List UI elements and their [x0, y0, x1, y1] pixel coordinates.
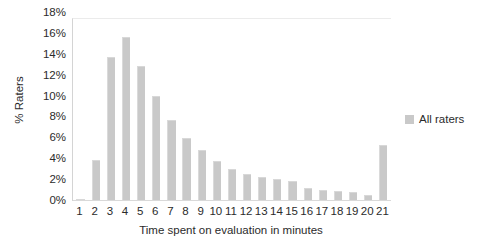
- bar: [167, 120, 175, 201]
- x-axis-tick-4: 4: [117, 203, 132, 219]
- x-axis-tick-14: 14: [269, 203, 284, 219]
- bar-slot: [285, 19, 300, 201]
- bar-series-all-raters: [73, 19, 391, 201]
- bar-slot: [346, 19, 361, 201]
- y-axis-title-text: % Raters: [13, 76, 25, 123]
- y-axis-tick-8%: 8%: [49, 110, 66, 122]
- bar: [273, 179, 281, 201]
- y-axis-tick-6%: 6%: [49, 131, 66, 143]
- x-axis-tick-12: 12: [239, 203, 254, 219]
- bar-slot: [270, 19, 285, 201]
- bar-slot: [118, 19, 133, 201]
- bar: [319, 190, 327, 201]
- bar-slot: [315, 19, 330, 201]
- legend-label-all-raters: All raters: [419, 113, 464, 125]
- bar: [107, 57, 115, 201]
- bar-slot: [224, 19, 239, 201]
- x-axis-tick-17: 17: [314, 203, 329, 219]
- x-axis-tick-11: 11: [223, 203, 238, 219]
- x-axis-tick-13: 13: [254, 203, 269, 219]
- bar-slot: [330, 19, 345, 201]
- y-axis-tick-labels: 0%2%4%6%8%10%12%14%16%18%: [30, 12, 70, 200]
- bar-slot: [376, 19, 391, 201]
- x-axis-tick-19: 19: [345, 203, 360, 219]
- bar: [243, 174, 251, 201]
- x-axis-tick-9: 9: [193, 203, 208, 219]
- chart-legend: All raters: [400, 110, 469, 128]
- x-axis-tick-7: 7: [163, 203, 178, 219]
- bar: [76, 199, 84, 201]
- x-axis-tick-10: 10: [208, 203, 223, 219]
- y-axis-tick-0%: 0%: [49, 194, 66, 206]
- x-axis-tick-3: 3: [102, 203, 117, 219]
- bar: [198, 150, 206, 201]
- x-axis-tick-16: 16: [299, 203, 314, 219]
- x-axis-tick-1: 1: [72, 203, 87, 219]
- bar-slot: [134, 19, 149, 201]
- bar-slot: [164, 19, 179, 201]
- y-axis-tick-16%: 16%: [43, 27, 66, 39]
- bar: [288, 181, 296, 201]
- bar: [152, 96, 160, 201]
- legend-swatch-all-raters: [405, 115, 414, 124]
- bar-slot: [103, 19, 118, 201]
- bar: [304, 188, 312, 201]
- bar-slot: [179, 19, 194, 201]
- bar-slot: [209, 19, 224, 201]
- bar: [137, 66, 145, 201]
- x-axis-tick-15: 15: [284, 203, 299, 219]
- x-axis-tick-labels: 123456789101112131415161718192021: [72, 203, 390, 219]
- y-axis-tick-14%: 14%: [43, 48, 66, 60]
- y-axis-tick-4%: 4%: [49, 152, 66, 164]
- x-axis-tick-6: 6: [148, 203, 163, 219]
- bar-slot: [240, 19, 255, 201]
- x-axis-tick-5: 5: [133, 203, 148, 219]
- x-axis-tick-18: 18: [329, 203, 344, 219]
- bar: [364, 195, 372, 201]
- bar-slot: [300, 19, 315, 201]
- bar: [122, 37, 130, 201]
- y-axis-tick-18%: 18%: [43, 6, 66, 18]
- plot-area: [72, 18, 391, 201]
- bar-slot: [255, 19, 270, 201]
- y-axis-tick-12%: 12%: [43, 69, 66, 81]
- x-axis-tick-8: 8: [178, 203, 193, 219]
- bar-slot: [149, 19, 164, 201]
- y-axis-tick-10%: 10%: [43, 90, 66, 102]
- y-axis-tick-2%: 2%: [49, 173, 66, 185]
- bar-slot: [361, 19, 376, 201]
- bar: [213, 161, 221, 201]
- bar: [182, 138, 190, 201]
- chart-figure: % Raters 0%2%4%6%8%10%12%14%16%18% 12345…: [0, 0, 481, 251]
- bar: [92, 160, 100, 201]
- bar: [228, 169, 236, 201]
- x-axis-tick-2: 2: [87, 203, 102, 219]
- x-axis-tick-20: 20: [360, 203, 375, 219]
- bar: [379, 145, 387, 201]
- bar: [334, 191, 342, 201]
- bar: [349, 192, 357, 201]
- x-axis-tick-21: 21: [375, 203, 390, 219]
- y-axis-title: % Raters: [6, 0, 32, 200]
- x-axis-title: Time spent on evaluation in minutes: [72, 224, 390, 236]
- bar-slot: [194, 19, 209, 201]
- bar: [258, 177, 266, 201]
- bar-slot: [73, 19, 88, 201]
- bar-slot: [88, 19, 103, 201]
